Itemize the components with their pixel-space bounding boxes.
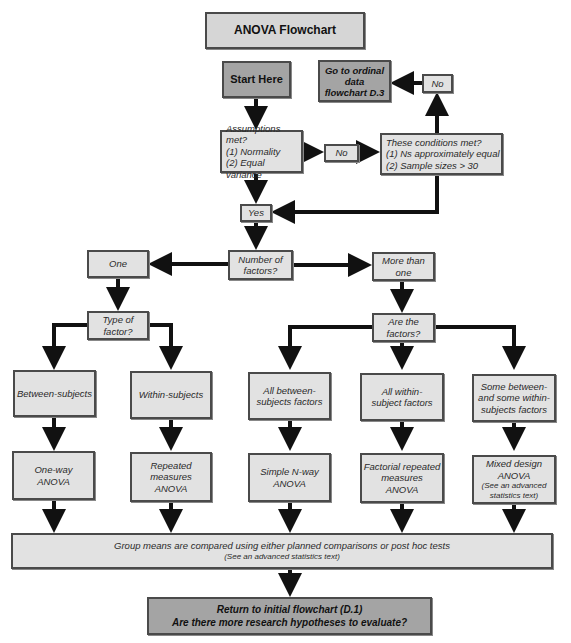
more-than-one-node: More than one bbox=[372, 252, 435, 281]
flowchart-title: ANOVA Flowchart bbox=[205, 12, 365, 49]
are-the-factors-node: Are the factors? bbox=[372, 313, 435, 342]
no-decision-top: No bbox=[422, 74, 453, 93]
all-within-node: All within- subject factors bbox=[360, 373, 444, 421]
group-means-node: Group means are compared using either pl… bbox=[11, 533, 553, 569]
ordinal-flowchart-node: Go to ordinal data flowchart D.3 bbox=[318, 60, 391, 102]
factorial-repeated-anova-node: Factorial repeated measures ANOVA bbox=[360, 453, 444, 503]
conditions-node: These conditions met? (1) Ns approximate… bbox=[380, 133, 503, 175]
assumptions-node: Assumptions met? (1) Normality (2) Equal… bbox=[220, 130, 303, 173]
mixed-design-anova-node: Mixed design ANOVA (See an advanced stat… bbox=[472, 455, 556, 504]
all-between-node: All between- subjects factors bbox=[248, 372, 331, 420]
start-here-node: Start Here bbox=[222, 61, 291, 98]
yes-decision: Yes bbox=[240, 204, 272, 222]
some-mixed-node: Some between- and some within- subjects … bbox=[472, 374, 556, 422]
one-way-anova-node: One-way ANOVA bbox=[12, 451, 95, 500]
one-factor-node: One bbox=[87, 250, 149, 278]
number-of-factors-node: Number of factors? bbox=[228, 250, 293, 280]
within-subjects-node: Within-subjects bbox=[130, 371, 212, 419]
no-decision-middle: No bbox=[324, 144, 359, 162]
return-to-initial-node: Return to initial flowchart (D.1) Are th… bbox=[147, 597, 432, 635]
between-subjects-node: Between-subjects bbox=[13, 370, 96, 417]
type-of-factor-node: Type of factor? bbox=[87, 311, 149, 340]
simple-nway-anova-node: Simple N-way ANOVA bbox=[248, 453, 331, 502]
repeated-measures-anova-node: Repeated measures ANOVA bbox=[130, 452, 212, 502]
